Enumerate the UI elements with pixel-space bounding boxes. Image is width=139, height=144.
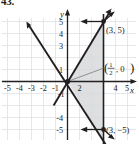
point-label-x-intercept: ( 1 2 , 0 ) — [104, 60, 134, 77]
x-axis-label: x — [129, 85, 134, 95]
point-label-upper: (3, 5) — [106, 25, 125, 35]
y-tick-3: 3 — [59, 42, 63, 51]
y-tick-1: 1 — [59, 66, 63, 75]
problem-number: 43. — [1, 0, 14, 7]
figure-container: 43. — [0, 0, 139, 144]
point-label-lower: (3, −5) — [106, 125, 130, 135]
point-marker-3-5 — [101, 19, 106, 24]
x-tick-2: 2 — [77, 84, 81, 93]
coordinate-plane-graphic: -5 -4 -3 -2 -1 2 4 5 5 4 3 1 -1 -4 -5 x … — [0, 0, 139, 144]
fraction-denominator: 2 — [109, 69, 112, 76]
y-tick-4: 4 — [59, 30, 63, 39]
paren-open: ( — [104, 60, 108, 75]
y-tick--5: -5 — [56, 126, 63, 135]
y-axis — [65, 9, 70, 140]
x-tick--4: -4 — [16, 84, 23, 93]
x-tick-4: 4 — [113, 84, 117, 93]
point-marker-origin — [65, 79, 70, 84]
direction-arrows-upper — [81, 12, 115, 25]
x-tick--3: -3 — [28, 84, 35, 93]
y-tick-labels: 5 4 3 1 -1 -4 -5 — [56, 18, 64, 135]
y-tick--4: -4 — [56, 114, 63, 123]
x-tick--5: -5 — [4, 84, 11, 93]
x-tick--2: -2 — [40, 84, 47, 93]
y-axis-label: y — [59, 9, 64, 19]
paren-close: ) — [130, 60, 134, 75]
x-tick-5: 5 — [125, 84, 129, 93]
intercept-rest: , 0 — [116, 64, 125, 74]
y-tick--1: -1 — [58, 90, 65, 99]
fraction-numerator: 1 — [109, 61, 112, 68]
